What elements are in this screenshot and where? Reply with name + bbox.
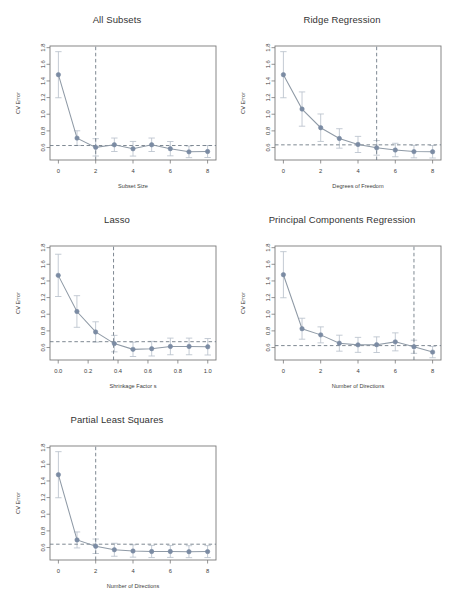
svg-text:1.8: 1.8 [40, 244, 46, 252]
svg-text:2: 2 [319, 368, 322, 374]
svg-text:1.4: 1.4 [40, 476, 46, 485]
svg-text:Number of Directions: Number of Directions [332, 383, 385, 389]
svg-text:0: 0 [282, 168, 285, 174]
svg-text:0.2: 0.2 [84, 368, 92, 374]
svg-text:1.2: 1.2 [40, 94, 46, 102]
svg-text:0.8: 0.8 [40, 127, 46, 135]
svg-text:1.2: 1.2 [265, 94, 271, 102]
svg-text:2: 2 [94, 568, 97, 574]
svg-text:6: 6 [394, 368, 397, 374]
svg-text:Number of Directions: Number of Directions [107, 583, 160, 589]
svg-text:Subset Size: Subset Size [118, 183, 148, 189]
svg-text:0.0: 0.0 [54, 368, 62, 374]
svg-text:8: 8 [431, 168, 434, 174]
svg-text:0.8: 0.8 [40, 527, 46, 535]
svg-text:1.6: 1.6 [265, 260, 271, 268]
svg-text:1.0: 1.0 [204, 368, 212, 374]
svg-text:1.0: 1.0 [265, 110, 271, 118]
plot-area-all-subsets: 0.60.81.01.21.41.61.802468Subset SizeCV … [6, 14, 228, 210]
svg-text:0.6: 0.6 [144, 368, 152, 374]
svg-text:4: 4 [356, 168, 360, 174]
svg-text:1.6: 1.6 [40, 60, 46, 68]
svg-text:0.8: 0.8 [265, 127, 271, 135]
svg-text:4: 4 [131, 568, 135, 574]
svg-text:1.4: 1.4 [40, 276, 46, 285]
svg-text:CV Error: CV Error [15, 492, 21, 514]
svg-text:0: 0 [282, 368, 285, 374]
svg-text:0: 0 [57, 568, 60, 574]
svg-text:0.6: 0.6 [40, 143, 46, 151]
svg-text:8: 8 [206, 168, 209, 174]
svg-text:1.4: 1.4 [40, 76, 46, 85]
svg-text:1.6: 1.6 [40, 260, 46, 268]
svg-text:1.8: 1.8 [265, 44, 271, 52]
svg-text:6: 6 [394, 168, 397, 174]
svg-text:1.4: 1.4 [265, 76, 271, 85]
svg-text:1.4: 1.4 [265, 276, 271, 285]
svg-text:4: 4 [356, 368, 360, 374]
svg-text:1.8: 1.8 [40, 44, 46, 52]
svg-text:1.0: 1.0 [265, 310, 271, 318]
panel-all-subsets: All Subsets0.60.81.01.21.41.61.802468Sub… [6, 14, 228, 210]
panel-ridge-regression: Ridge Regression0.60.81.01.21.41.61.8024… [231, 14, 453, 210]
svg-text:4: 4 [131, 168, 135, 174]
svg-text:1.8: 1.8 [265, 244, 271, 252]
figure-grid: All Subsets0.60.81.01.21.41.61.802468Sub… [0, 0, 457, 603]
svg-text:1.2: 1.2 [40, 294, 46, 302]
panel-lasso: Lasso0.60.81.01.21.41.61.80.00.20.40.60.… [6, 214, 228, 410]
svg-text:1.2: 1.2 [265, 294, 271, 302]
svg-text:CV Error: CV Error [15, 92, 21, 114]
svg-text:1.6: 1.6 [265, 60, 271, 68]
svg-text:0.8: 0.8 [265, 327, 271, 335]
svg-text:0.8: 0.8 [174, 368, 182, 374]
svg-text:CV Error: CV Error [240, 92, 246, 114]
svg-text:0.6: 0.6 [265, 143, 271, 151]
svg-text:CV Error: CV Error [15, 292, 21, 314]
svg-text:0.6: 0.6 [40, 343, 46, 351]
svg-text:2: 2 [319, 168, 322, 174]
plot-area-lasso: 0.60.81.01.21.41.61.80.00.20.40.60.81.0S… [6, 214, 228, 410]
svg-text:CV Error: CV Error [240, 292, 246, 314]
svg-text:1.6: 1.6 [40, 460, 46, 468]
plot-area-ridge-regression: 0.60.81.01.21.41.61.802468Degrees of Fre… [231, 14, 453, 210]
svg-text:8: 8 [206, 568, 209, 574]
svg-text:1.0: 1.0 [40, 110, 46, 118]
plot-area-partial-least-squares: 0.60.81.01.21.41.61.802468Number of Dire… [6, 414, 228, 603]
svg-text:Degrees of Freedom: Degrees of Freedom [332, 183, 384, 189]
svg-text:1.0: 1.0 [40, 510, 46, 518]
svg-text:1.8: 1.8 [40, 444, 46, 452]
svg-text:1.0: 1.0 [40, 310, 46, 318]
svg-text:0.8: 0.8 [40, 327, 46, 335]
svg-text:0: 0 [57, 168, 60, 174]
svg-text:0.6: 0.6 [40, 543, 46, 551]
svg-text:0.4: 0.4 [114, 368, 123, 374]
panel-principal-components-regression: Principal Components Regression0.60.81.0… [231, 214, 453, 410]
svg-text:0.6: 0.6 [265, 343, 271, 351]
plot-area-principal-components-regression: 0.60.81.01.21.41.61.802468Number of Dire… [231, 214, 453, 410]
svg-text:Shrinkage Factor s: Shrinkage Factor s [110, 383, 157, 389]
svg-text:6: 6 [169, 568, 172, 574]
svg-text:8: 8 [431, 368, 434, 374]
svg-text:2: 2 [94, 168, 97, 174]
svg-text:6: 6 [169, 168, 172, 174]
panel-partial-least-squares: Partial Least Squares0.60.81.01.21.41.61… [6, 414, 228, 603]
svg-text:1.2: 1.2 [40, 494, 46, 502]
